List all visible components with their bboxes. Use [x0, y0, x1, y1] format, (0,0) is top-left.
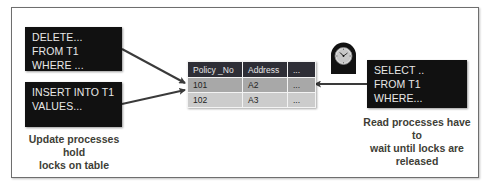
column-header: Policy _No: [188, 62, 243, 78]
sql-line: FROM T1: [374, 77, 460, 91]
delete-arrow: [122, 49, 185, 83]
clock-icon: [330, 42, 357, 75]
table-cell: ...: [288, 78, 316, 93]
caption-line: Read processes have to: [358, 116, 476, 142]
table-cell: 101: [188, 78, 243, 93]
table-row: 101 A2 ...: [188, 78, 316, 93]
column-header: ...: [288, 62, 316, 78]
caption-line: released: [358, 155, 476, 168]
locked-table: Policy _No Address ... 101 A2 ... 102 A3…: [187, 61, 316, 108]
read-processes-caption: Read processes have to wait until locks …: [358, 116, 476, 168]
table-cell: 102: [188, 93, 243, 108]
insert-arrow: [122, 90, 185, 104]
sql-line: FROM T1: [32, 44, 115, 58]
sql-line: INSERT INTO T1: [32, 85, 115, 99]
sql-line: DELETE...: [32, 30, 115, 44]
insert-statement-box: INSERT INTO T1 VALUES...: [25, 82, 122, 127]
table-row: 102 A3 ...: [188, 93, 316, 108]
column-header: Address: [243, 62, 288, 78]
sql-line: WHERE ...: [32, 58, 115, 72]
table-cell: ...: [288, 93, 316, 108]
caption-line: locks on table: [18, 159, 130, 172]
sql-line: WHERE...: [374, 91, 460, 105]
sql-line: SELECT ..: [374, 63, 460, 77]
table-cell: A2: [243, 78, 288, 93]
delete-statement-box: DELETE... FROM T1 WHERE ...: [25, 27, 122, 71]
caption-line: wait until locks are: [358, 142, 476, 155]
caption-line: Update processes hold: [18, 133, 130, 159]
update-processes-caption: Update processes hold locks on table: [18, 133, 130, 172]
table-cell: A3: [243, 93, 288, 108]
table-header-row: Policy _No Address ...: [188, 62, 316, 78]
sql-line: VALUES...: [32, 99, 115, 113]
select-statement-box: SELECT .. FROM T1 WHERE...: [367, 60, 467, 108]
